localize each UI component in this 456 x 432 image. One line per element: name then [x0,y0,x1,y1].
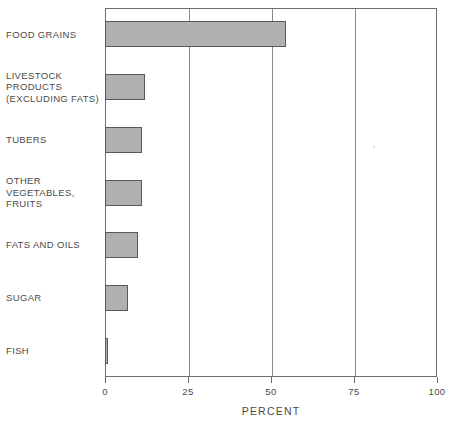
tick-label-0: 0 [102,386,108,397]
category-label: FOOD GRAINS [6,29,103,41]
x-axis-title: PERCENT [105,405,437,417]
category-label: FATS AND OILS [6,239,103,251]
category-label: OTHER VEGETABLES, FRUITS [6,175,103,210]
category-label: LIVESTOCK PRODUCTS (EXCLUDING FATS) [6,70,103,105]
bar-row [105,21,437,47]
tick-mark-50 [271,377,272,383]
tick-mark-100 [437,377,438,383]
bar [105,285,128,311]
bar-row [105,127,437,153]
bar-row [105,338,437,364]
tick-label-50: 50 [265,386,276,397]
tick-mark-75 [354,377,355,383]
bar-row [105,180,437,206]
bar [105,74,145,100]
bar [105,127,142,153]
bar-chart: FOOD GRAINSLIVESTOCK PRODUCTS (EXCLUDING… [0,0,456,432]
tick-mark-25 [188,377,189,383]
category-labels: FOOD GRAINSLIVESTOCK PRODUCTS (EXCLUDING… [0,8,103,377]
bar [105,21,286,47]
category-label: FISH [6,345,103,357]
tick-mark-0 [105,377,106,383]
bar-row [105,232,437,258]
bar-row [105,74,437,100]
tick-label-100: 100 [428,386,445,397]
bar [105,338,108,364]
bar [105,232,138,258]
bars-container [105,8,437,377]
tick-label-25: 25 [182,386,193,397]
bar [105,180,142,206]
tick-label-75: 75 [348,386,359,397]
category-label: SUGAR [6,292,103,304]
bar-row [105,285,437,311]
category-label: TUBERS [6,134,103,146]
